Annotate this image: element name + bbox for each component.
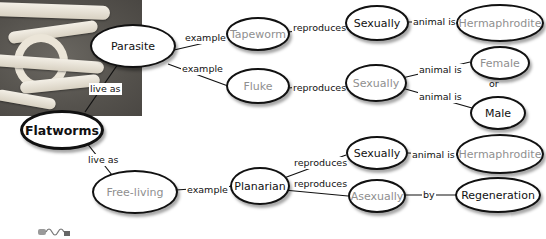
- node-planarian-hermaphrodite: Hermaphrodite: [456, 134, 544, 174]
- node-planarian-sexually: Sexually: [346, 136, 408, 170]
- link-planarian-animal-is: animal is: [411, 149, 456, 161]
- node-planarian: Planarian: [230, 167, 290, 205]
- link-fluke-animal-is-male: animal is: [418, 91, 463, 103]
- link-example-fluke: example: [181, 63, 224, 75]
- node-flatworms: Flatworms: [20, 110, 104, 150]
- link-planarian-reproduces-asex: reproduces: [293, 178, 348, 190]
- link-example-planarian: example: [186, 184, 229, 196]
- node-male: Male: [470, 96, 526, 130]
- link-planarian-reproduces-sex: reproduces: [293, 157, 348, 169]
- node-female: Female: [470, 46, 530, 80]
- node-fluke: Fluke: [226, 68, 290, 104]
- node-fluke-sexually: Sexually: [345, 64, 407, 102]
- node-free-living: Free-living: [92, 170, 178, 214]
- link-fluke-reproduces: reproduces: [292, 82, 347, 94]
- link-live-as-free: live as: [87, 154, 120, 166]
- squiggle-decoration-icon: [38, 226, 98, 238]
- link-tapeworm-reproduces: reproduces: [292, 22, 347, 34]
- node-parasite: Parasite: [90, 24, 176, 68]
- link-fluke-animal-is-female: animal is: [418, 64, 463, 76]
- link-example-tapeworm: example: [184, 32, 227, 44]
- node-tapeworm: Tapeworm: [226, 17, 290, 51]
- link-by: by: [422, 189, 436, 201]
- node-tapeworm-hermaphrodite: Hermaphrodite: [456, 4, 544, 42]
- node-tapeworm-sexually: Sexually: [345, 5, 409, 41]
- link-live-as-parasite: live as: [89, 83, 122, 95]
- node-planarian-asexually: Asexually: [348, 179, 406, 213]
- link-tapeworm-animal-is: animal is: [412, 16, 457, 28]
- node-regeneration: Regeneration: [455, 177, 541, 213]
